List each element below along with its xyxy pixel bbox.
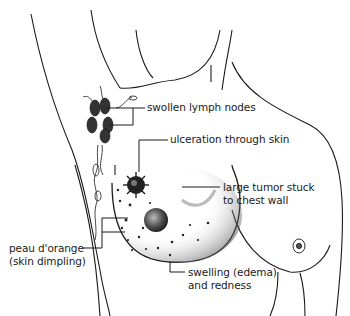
label-tumor-line2: to chest wall [223, 194, 288, 207]
label-ulceration: ulceration through skin [170, 133, 289, 146]
label-swollen-lymph-nodes: swollen lymph nodes [147, 101, 256, 114]
label-tumor-line1: large tumor stuck [223, 181, 314, 194]
illustration [0, 0, 350, 316]
label-swelling-line1: swelling (edema) [188, 266, 277, 279]
nipple-icon [293, 239, 305, 253]
label-peau-line1: peau d'orange [9, 242, 84, 255]
label-swelling-line2: and redness [188, 279, 251, 292]
label-peau-line2: (skin dimpling) [9, 255, 86, 268]
tumor-icon [144, 208, 168, 232]
body-outline [31, 10, 343, 316]
